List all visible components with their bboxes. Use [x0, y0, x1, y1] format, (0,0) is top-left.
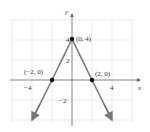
x-tick-4: 4 [110, 84, 114, 92]
y-tick-2: 2 [66, 57, 70, 65]
x-tick-neg4: −4 [24, 84, 32, 92]
left-arrow-icon [32, 104, 40, 120]
point-neg2-0 [50, 78, 54, 82]
label-0-4: (0, 4) [76, 35, 92, 43]
graph: x y −4 4 4 2 −2 (−2, 0) (0, 4) (2, 0) [0, 0, 150, 132]
x-axis-label: x [137, 84, 142, 92]
y-tick-neg2: −2 [59, 97, 67, 105]
point-2-0 [90, 78, 94, 82]
y-axis-label: y [64, 8, 69, 16]
right-arrow-icon [104, 104, 112, 120]
label-2-0: (2, 0) [95, 70, 111, 78]
point-0-4 [70, 37, 74, 41]
label-neg2-0: (−2, 0) [24, 68, 44, 76]
